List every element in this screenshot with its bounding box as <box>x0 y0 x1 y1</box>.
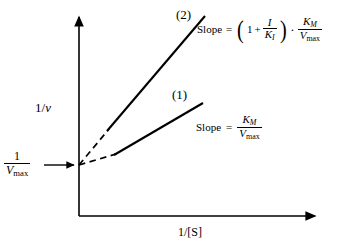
vmax-denominator-sub: max <box>13 167 28 177</box>
curve-2-dashed-segment <box>79 129 109 165</box>
curve-1-equation-lhs: Slope <box>196 122 221 133</box>
curve-2-inner-denominator-sub: I <box>272 33 275 42</box>
curve-1-solid-segment <box>114 103 203 155</box>
curve-2-label: (2) <box>176 8 191 21</box>
curve-2-inhibitor-fraction: I KI <box>263 17 277 43</box>
y-axis-title: 1/v <box>35 101 51 114</box>
curve-2-km-vmax-fraction: KM Vmax <box>298 16 322 43</box>
curve-1-equation-equals: = <box>224 122 234 133</box>
y-axis-title-prefix: 1/ <box>35 100 45 115</box>
curve-1-km-vmax-fraction: KM Vmax <box>237 114 261 141</box>
curve-2-equation-equals: = <box>224 24 234 35</box>
vmax-intercept-label: 1 Vmax <box>4 150 30 178</box>
curve-1-km-base: K <box>242 113 249 125</box>
curve-2-close-paren: ) <box>280 19 287 40</box>
curve-2-vmax-sub: max <box>306 34 320 43</box>
curve-1-km: KM <box>237 114 261 128</box>
curve-2-inner-denominator: KI <box>263 29 277 42</box>
curve-2-equation-lhs: Slope <box>197 24 222 35</box>
curve-2-multiply-dot: · <box>289 23 295 36</box>
curve-1-vmax: Vmax <box>237 128 261 141</box>
curve-1-km-sub: M <box>250 118 257 127</box>
curve-2-solid-segment <box>107 16 205 131</box>
vmax-intercept-fraction: 1 Vmax <box>4 150 30 178</box>
lineweaver-burk-figure: 1/v 1/[S] 1 Vmax (2) (1) Slope = ( 1 + I… <box>0 0 347 249</box>
curve-1-vmax-sub: max <box>246 132 260 141</box>
x-axis-title: 1/[S] <box>178 226 202 238</box>
curve-1-equation: Slope = KM Vmax <box>196 114 262 141</box>
curve-2-vmax: Vmax <box>298 30 322 43</box>
curve-2-inner-denominator-base: K <box>265 28 272 40</box>
curve-2-plus: + <box>254 24 260 35</box>
curve-1-dashed-segment <box>79 154 116 165</box>
curve-2-one: 1 <box>247 24 253 35</box>
curve-1-vmax-base: V <box>239 127 246 139</box>
curve-2-equation: Slope = ( 1 + I KI ) · KM Vmax <box>197 16 322 43</box>
curve-2-km: KM <box>298 16 322 30</box>
vmax-intercept-numerator: 1 <box>4 150 30 164</box>
y-axis-title-variable: v <box>45 100 51 115</box>
curve-1-label: (1) <box>172 88 187 101</box>
curve-2-open-paren: ( <box>237 19 244 40</box>
curve-2-km-sub: M <box>310 20 317 29</box>
vmax-intercept-denominator: Vmax <box>4 164 30 178</box>
